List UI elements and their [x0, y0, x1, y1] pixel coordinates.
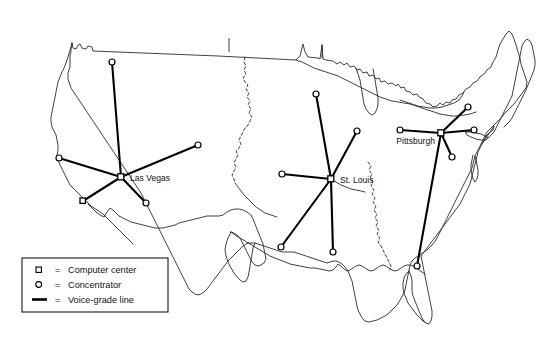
hub-group-st-louis: St. Louis [278, 91, 373, 255]
concentrator-node[interactable] [109, 59, 115, 65]
hub-group-las-vegas: Las Vegas [56, 59, 201, 206]
voice-grade-line [59, 158, 121, 177]
concentrator-node[interactable] [143, 200, 149, 206]
border-tick-group [229, 38, 322, 58]
new-england-path [488, 39, 535, 138]
computer-center-node-pittsburgh[interactable] [438, 130, 444, 136]
concentrator-node[interactable] [449, 154, 455, 160]
voice-grade-line [282, 174, 331, 179]
concentrator-node[interactable] [278, 244, 284, 250]
voice-grade-line [112, 62, 121, 177]
city-label-las-vegas: Las Vegas [130, 173, 170, 183]
concentrator-node[interactable] [279, 171, 285, 177]
concentrator-node[interactable] [471, 127, 477, 133]
computer-center-node-st-louis[interactable] [328, 176, 334, 182]
voice-grade-line [331, 131, 357, 179]
network-map-figure: Las Vegas St. Louis [0, 0, 547, 346]
map-legend: = Computer center = Concentrator = Voice… [22, 258, 168, 312]
concentrator-node[interactable] [397, 127, 403, 133]
west-coast-path [51, 43, 133, 244]
map-canvas: Las Vegas St. Louis [0, 0, 547, 346]
voice-grade-line [281, 179, 331, 247]
legend-label-concentrator: Concentrator [68, 280, 121, 290]
city-label-st-louis: St. Louis [340, 175, 373, 185]
legend-label-voice-grade-line: Voice-grade line [68, 295, 134, 305]
river-group [232, 57, 391, 270]
computer-center-node-las-vegas[interactable] [118, 174, 124, 180]
voice-grade-line [83, 177, 121, 201]
legend-label-computer-center: Computer center [68, 265, 136, 275]
concentrator-node[interactable] [465, 104, 471, 110]
legend-equals-3: = [55, 295, 60, 305]
voice-grade-line [441, 107, 468, 133]
texas-outline-path [225, 232, 255, 282]
great-lakes-path [296, 60, 476, 116]
gulf-coast-path [231, 232, 425, 274]
circle-marker-icon [36, 282, 42, 288]
network-layer: Las Vegas St. Louis [56, 59, 477, 269]
southwest-border-path [88, 204, 266, 266]
concentrator-node[interactable] [195, 142, 201, 148]
concentrator-node[interactable] [354, 128, 360, 134]
city-label-pittsburgh: Pittsburgh [396, 136, 435, 146]
concentrator-node[interactable] [80, 198, 85, 203]
legend-equals-2: = [55, 280, 60, 290]
legend-equals-1: = [55, 265, 60, 275]
lake-michigan-path [356, 68, 378, 115]
voice-grade-line [331, 179, 333, 252]
voice-grade-line [441, 133, 452, 157]
voice-grade-line [400, 130, 441, 133]
square-marker-icon [36, 267, 41, 272]
concentrator-node[interactable] [414, 263, 420, 269]
upper-mississippi-path [235, 183, 277, 217]
voice-grade-line [316, 94, 331, 179]
concentrator-node[interactable] [56, 155, 62, 161]
concentrator-node[interactable] [313, 91, 319, 97]
florida-west-shore-path [403, 271, 426, 323]
hub-group-pittsburgh: Pittsburgh [396, 104, 477, 269]
concentrator-node[interactable] [330, 249, 336, 255]
missouri-river-dashed-path [232, 57, 252, 183]
voice-grade-line [441, 130, 474, 133]
